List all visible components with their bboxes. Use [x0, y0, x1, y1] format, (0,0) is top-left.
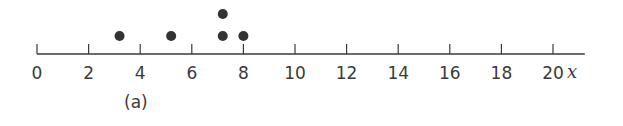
x-tick-label: 2 — [83, 63, 94, 83]
x-tick-label: 0 — [32, 63, 43, 83]
x-axis-label: x — [567, 61, 577, 82]
data-point — [238, 31, 248, 41]
data-point — [218, 9, 228, 19]
dot-plot: 02468101214161820 x (a) — [0, 0, 623, 126]
data-point — [218, 31, 228, 41]
data-point — [166, 31, 176, 41]
data-points — [115, 9, 249, 41]
x-tick-label: 14 — [387, 63, 409, 83]
x-tick-label: 6 — [186, 63, 197, 83]
data-point — [115, 31, 125, 41]
x-tick-label: 10 — [284, 63, 306, 83]
x-tick-label: 20 — [542, 63, 564, 83]
x-tick-label: 4 — [135, 63, 146, 83]
figure-caption: (a) — [124, 92, 148, 112]
x-tick-label: 12 — [336, 63, 358, 83]
x-tick-label: 8 — [238, 63, 249, 83]
x-tick-label: 16 — [439, 63, 461, 83]
x-axis-ticks: 02468101214161820 — [32, 44, 564, 83]
x-tick-label: 18 — [491, 63, 513, 83]
